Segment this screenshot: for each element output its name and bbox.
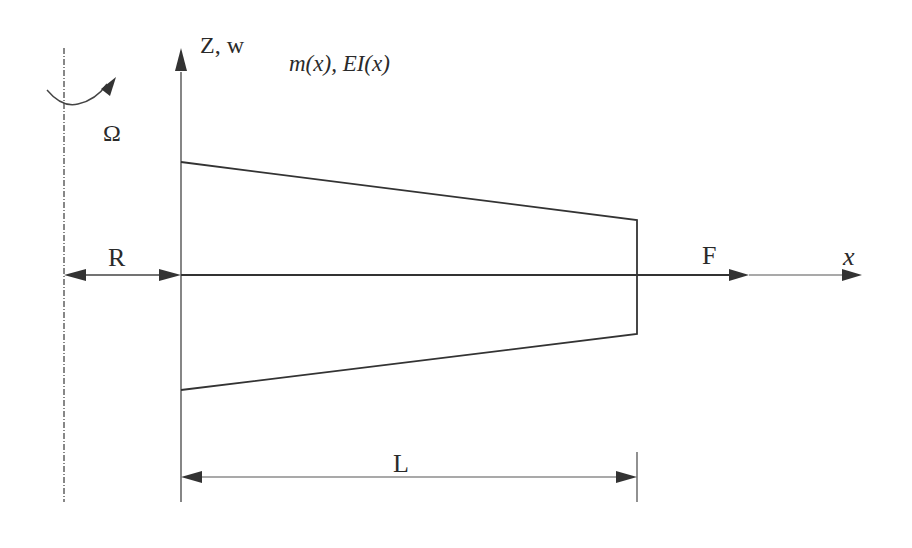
l-dimension-right-arrowhead-icon (616, 471, 637, 483)
beam-length-label: L (393, 451, 409, 477)
r-dimension-right-arrowhead-icon (159, 269, 181, 281)
x-axis-label: x (843, 244, 855, 270)
z-axis-label: Z, w (200, 33, 244, 57)
rotation-speed-label: Ω (103, 121, 121, 145)
r-dimension-left-arrowhead-icon (64, 269, 86, 281)
rotation-arrowhead-icon (101, 77, 116, 96)
l-dimension-left-arrowhead-icon (181, 471, 202, 483)
rotating-beam-diagram (0, 0, 912, 548)
tapered-beam (181, 162, 637, 390)
force-arrowhead-icon (729, 269, 749, 281)
axial-force-label: F (702, 243, 716, 269)
z-axis-arrowhead-icon (175, 48, 187, 71)
hub-radius-label: R (108, 245, 125, 271)
beam-properties-label: m(x), EI(x) (289, 52, 390, 75)
rotation-arrow-icon (47, 84, 107, 105)
